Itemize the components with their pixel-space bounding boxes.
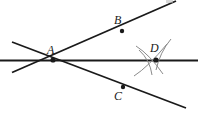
point-dot-A: [50, 57, 55, 62]
point-dots-group: [50, 29, 158, 89]
geometry-figure: A B C D: [0, 0, 198, 114]
geometry-canvas: [0, 0, 198, 114]
lines-group: [0, 1, 198, 108]
point-dot-B: [120, 29, 124, 33]
point-label-A: A: [47, 44, 54, 56]
point-label-B: B: [114, 14, 121, 26]
point-label-D: D: [150, 42, 159, 54]
clipped-top-label-artifact: [166, 0, 173, 3]
point-label-C: C: [114, 90, 122, 102]
point-dot-D: [153, 57, 158, 62]
